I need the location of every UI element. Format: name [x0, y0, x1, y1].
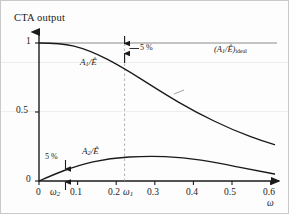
x-tick-label-omega1: ω1 [123, 188, 133, 198]
five-percent-upper-marker [125, 36, 139, 63]
x-tick-label-0point4: 0.4 [186, 188, 198, 198]
y-tick-label-1: 1 [26, 37, 31, 47]
plot-canvas [1, 1, 289, 214]
ideal-curve-label: (A1/Ê)ideal [214, 45, 247, 55]
figure-container: CTA output 1 0.5 0 0 0.1 0.2 0.3 0.4 0.5… [0, 0, 289, 214]
five-percent-lower-label: 5 % [45, 153, 58, 161]
omega1-subscript: 1 [130, 190, 133, 197]
x-tick-label-0: 0 [36, 188, 41, 198]
x-tick-label-0point6: 0.6 [263, 188, 275, 198]
background-gridlines [1, 63, 289, 112]
omega2-subscript: 2 [57, 190, 60, 197]
ideal-label-sub2: ideal [235, 48, 247, 54]
x-tick-label-omega2: ω2 [50, 188, 60, 198]
curve-a2-over-e [39, 156, 275, 181]
x-tick-label-0point5: 0.5 [224, 188, 236, 198]
ideal-label-main: (A [214, 44, 222, 54]
y-tick-label-0: 0 [26, 175, 31, 185]
five-percent-upper-label: 5 % [140, 44, 153, 52]
omega1-symbol: ω [123, 187, 130, 197]
ideal-label-mid: /Ê) [225, 44, 235, 54]
chart-title: CTA output [14, 13, 65, 24]
y-tick-label-0point5: 0.5 [16, 106, 28, 116]
curve1-label-rest: /Ê [89, 57, 97, 67]
x-tick-label-0point2: 0.2 [108, 188, 120, 198]
x-tick-label-0point3: 0.3 [147, 188, 159, 198]
omega2-symbol: ω [50, 187, 57, 197]
ideal-label-leader [174, 90, 184, 94]
curve-a1-over-e [39, 43, 275, 145]
curve1-label: A1/Ê [80, 58, 97, 68]
curve2-label-rest: /Ê [91, 146, 99, 156]
x-tick-label-0point1: 0.1 [70, 188, 82, 198]
x-axis-label: ω [267, 199, 274, 209]
curve2-label: A2/Ê [82, 147, 99, 157]
